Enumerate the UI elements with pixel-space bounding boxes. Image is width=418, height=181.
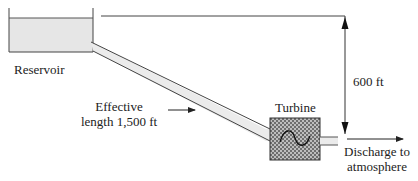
turbine-label: Turbine <box>275 100 316 115</box>
hydro-diagram: Reservoir 600 ft Effective length 1,500 … <box>0 0 418 181</box>
effective-length-label-line1: Effective <box>66 99 172 114</box>
reservoir <box>9 8 93 52</box>
arrow-up-icon <box>342 17 349 29</box>
head-dimension <box>342 16 349 134</box>
head-label: 600 ft <box>353 74 384 89</box>
effective-length-label-line2: length 1,500 ft <box>66 114 172 129</box>
arrow-down-icon <box>342 122 349 134</box>
turbine <box>270 118 320 160</box>
reservoir-label: Reservoir <box>14 62 65 77</box>
reservoir-water <box>9 18 93 52</box>
discharge-label-line2: atmosphere <box>336 159 418 174</box>
discharge-label-line1: Discharge to <box>336 144 418 159</box>
